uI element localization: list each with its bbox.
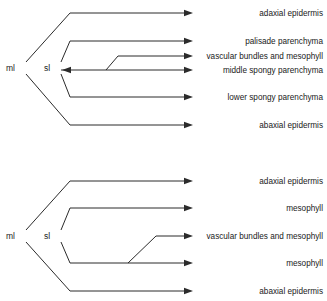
- node-label-ml-lower: ml: [6, 231, 15, 241]
- edge-sl-to-mesophyll-upper: [61, 208, 184, 230]
- leaf-label-middle-spongy-parenchyma: middle spongy parenchyma: [223, 66, 324, 75]
- leaf-label-vascular-bundles-and-mesophyll-upper: vascular bundles and mesophyll: [206, 52, 323, 61]
- leaf-label-adaxial-epidermis-lower: adaxial epidermis: [259, 177, 323, 186]
- lower-diagram: ml sl adaxial epidermis mesophyll vascul…: [6, 177, 323, 296]
- leaf-label-palisade-parenchyma: palisade parenchyma: [245, 37, 323, 46]
- arrowhead-adaxial-epidermis-lower: [184, 178, 193, 184]
- node-label-sl-lower: sl: [44, 231, 50, 241]
- tree-diagram-figure: ml sl adaxial epidermis palisade parench…: [0, 0, 327, 301]
- arrowhead-middle-spongy-parenchyma: [184, 67, 193, 73]
- arrowhead-vascular-bundles-lower: [184, 233, 193, 239]
- arrowhead-lower-spongy-parenchyma: [184, 94, 193, 100]
- arrowhead-vascular-bundles-upper: [184, 53, 193, 59]
- edge-sl-to-mesophyll-lower: [61, 242, 184, 263]
- upper-diagram: ml sl adaxial epidermis palisade parench…: [6, 9, 323, 130]
- arrowhead-palisade-parenchyma: [184, 38, 193, 44]
- node-label-ml-upper: ml: [6, 63, 15, 73]
- edge-sl-to-lower-spongy-parenchyma: [61, 74, 184, 97]
- edge-ml-to-adaxial-epidermis-upper: [26, 13, 184, 62]
- arrowhead-abaxial-epidermis-lower: [184, 288, 193, 294]
- leaf-label-lower-spongy-parenchyma: lower spongy parenchyma: [227, 93, 323, 102]
- leaf-label-abaxial-epidermis-upper: abaxial epidermis: [259, 121, 323, 130]
- edge-to-vascular-bundles-lower: [128, 236, 184, 263]
- arrowhead-mesophyll-lower: [184, 260, 193, 266]
- arrowhead-adaxial-epidermis-upper: [184, 10, 193, 16]
- leaf-label-adaxial-epidermis-upper: adaxial epidermis: [259, 9, 323, 18]
- edge-ml-to-adaxial-epidermis-lower: [26, 181, 184, 230]
- edge-ml-to-abaxial-epidermis-lower: [26, 242, 184, 291]
- arrowhead-mesophyll-upper: [184, 205, 193, 211]
- edge-to-vascular-bundles-upper: [106, 56, 184, 70]
- node-label-sl-upper: sl: [44, 63, 50, 73]
- arrowhead-abaxial-epidermis-upper: [184, 122, 193, 128]
- leaf-label-mesophyll-lower: mesophyll: [286, 259, 323, 268]
- leaf-label-vascular-bundles-and-mesophyll-lower: vascular bundles and mesophyll: [206, 232, 323, 241]
- leaf-label-mesophyll-upper: mesophyll: [286, 204, 323, 213]
- edge-ml-to-abaxial-epidermis-upper: [26, 74, 184, 125]
- edge-sl-to-palisade-parenchyma: [61, 41, 184, 62]
- leaf-label-abaxial-epidermis-lower: abaxial epidermis: [259, 287, 323, 296]
- arrowhead-into-sl-upper: [62, 67, 71, 73]
